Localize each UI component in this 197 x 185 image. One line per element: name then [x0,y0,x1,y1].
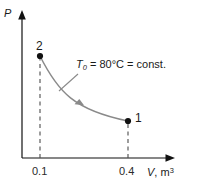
diagram-canvas [0,0,197,185]
y-axis-label: P [4,8,11,19]
y-axis [18,10,26,158]
x-tick-label-0: 0.1 [32,166,47,177]
x-axis-label-unit: m [160,166,169,178]
process-temperature-unit: °C [112,58,124,70]
process-symbol: T [76,58,83,70]
state-label-2: 2 [36,40,43,52]
x-axis-arrowhead-icon [166,154,176,162]
process-annotation: T0 = 80°C = const. [76,59,166,72]
point-marker-2 [37,53,43,59]
process-const-text: const. [137,58,166,70]
process-temperature-value: 80 [99,58,111,70]
point-marker-1 [125,118,131,124]
pv-diagram-figure: P V, m3 0.1 0.4 2 1 T0 = 80°C = const. [0,0,197,185]
x-axis-label: V, m3 [147,167,174,178]
state-label-1: 1 [135,112,142,124]
label-leader-line [59,74,78,91]
x-axis-label-exponent: 3 [170,166,174,175]
y-axis-arrowhead-icon [18,10,26,20]
x-tick-label-1: 0.4 [119,166,134,177]
x-axis [22,154,175,162]
